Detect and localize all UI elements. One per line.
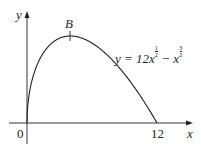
- point-b-label: B: [65, 17, 73, 30]
- x-axis-arrow-icon: [186, 121, 193, 126]
- equation-minus: − x: [158, 51, 179, 66]
- exponent-three-halves: 32: [179, 45, 182, 58]
- equation-label: y = 12x12 − x32: [115, 45, 182, 67]
- chart-canvas: [0, 0, 201, 152]
- equation-lhs: y = 12x: [115, 51, 155, 66]
- y-axis-label: y: [16, 8, 22, 21]
- x-axis-label: x: [187, 127, 193, 140]
- exp2-den: 2: [179, 52, 182, 58]
- x-intercept-label: 12: [151, 127, 164, 140]
- y-axis-arrow-icon: [25, 11, 30, 18]
- origin-label: 0: [17, 127, 24, 140]
